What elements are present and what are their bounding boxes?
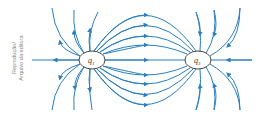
charge-q2-outline [185,51,211,69]
field-lines [32,8,252,110]
charge-q2: q2 [185,51,211,69]
electric-field-diagram: q1 q2 [0,0,258,115]
charge-q1-outline [79,51,105,69]
charge-q1: q1 [79,51,105,69]
